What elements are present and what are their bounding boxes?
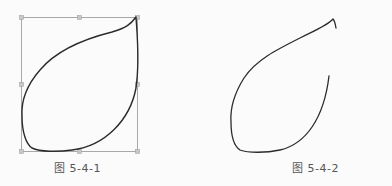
handle-top-middle[interactable] (78, 16, 82, 20)
selection-box[interactable] (22, 18, 138, 152)
selection-handles[interactable] (20, 16, 140, 154)
handle-bottom-middle[interactable] (78, 150, 82, 154)
figure-caption: 图 5-4-1 (54, 159, 101, 175)
leaf-path-closed[interactable] (22, 17, 138, 151)
figure-5-4-1: 图 5-4-1 (0, 0, 196, 186)
handle-middle-left[interactable] (20, 83, 24, 87)
handle-bottom-left[interactable] (20, 150, 24, 154)
figure-caption: 图 5-4-2 (292, 159, 339, 175)
handle-top-left[interactable] (20, 16, 24, 20)
leaf-path-open[interactable] (231, 19, 336, 152)
figure-5-4-2: 图 5-4-2 (196, 0, 392, 186)
handle-bottom-right[interactable] (136, 150, 140, 154)
